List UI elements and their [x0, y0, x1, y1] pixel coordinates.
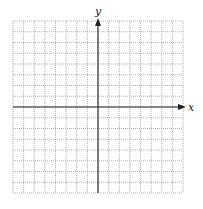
- y-axis-label: y: [94, 5, 102, 18]
- coordinate-plane: x y: [0, 0, 203, 209]
- y-axis-arrow-icon: [95, 18, 101, 26]
- x-axis-arrow-icon: [178, 104, 186, 110]
- axes: [13, 18, 186, 193]
- x-axis-label: x: [188, 101, 195, 114]
